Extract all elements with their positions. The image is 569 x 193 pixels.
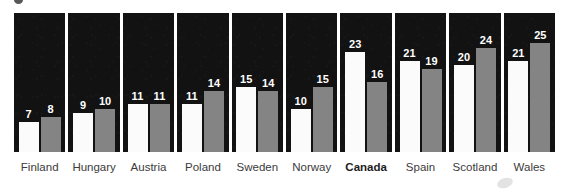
bar-series-b (150, 104, 170, 152)
bar-value-label: 14 (208, 78, 220, 89)
bar-value-label: 10 (99, 96, 111, 107)
bar-column: 8 (41, 13, 61, 152)
chart-panel-spain: 2119 (395, 13, 446, 152)
bar-series-b (41, 117, 61, 152)
bar-column: 11 (128, 13, 148, 152)
bar-group: 78 (14, 13, 65, 152)
bar-series-b (422, 69, 442, 152)
bar-column: 19 (422, 13, 442, 152)
category-label-spain: Spain (395, 160, 446, 180)
category-label-hungary: Hungary (68, 160, 119, 180)
category-label-wales: Wales (504, 160, 555, 180)
bar-value-label: 9 (80, 100, 86, 111)
bar-column: 9 (73, 13, 93, 152)
bar-series-a (236, 87, 256, 152)
bar-column: 20 (454, 13, 474, 152)
chart-panel-canada: 2316 (340, 13, 391, 152)
bar-column: 11 (182, 13, 202, 152)
bar-value-label: 11 (186, 91, 198, 102)
bar-series-b (95, 109, 115, 152)
bar-column: 11 (150, 13, 170, 152)
bar-column: 25 (530, 13, 550, 152)
bar-value-label: 14 (262, 78, 274, 89)
bar-column: 24 (476, 13, 496, 152)
bar-column: 10 (291, 13, 311, 152)
bar-series-a (291, 109, 311, 152)
chart-panel-sweden: 1514 (232, 13, 283, 152)
category-label-canada: Canada (340, 160, 391, 180)
top-edge-artifact (14, 0, 23, 4)
bar-column: 7 (19, 13, 39, 152)
bar-column: 16 (367, 13, 387, 152)
chart-panel-austria: 1111 (123, 13, 174, 152)
bar-series-b (367, 82, 387, 152)
bar-series-b (530, 43, 550, 152)
bar-series-a (19, 122, 39, 152)
bar-value-label: 25 (534, 30, 546, 41)
bar-value-label: 7 (26, 109, 32, 120)
chart-panel-wales: 2125 (504, 13, 555, 152)
bar-column: 10 (95, 13, 115, 152)
bar-value-label: 11 (154, 91, 166, 102)
chart-panel-poland: 1114 (177, 13, 228, 152)
bar-series-b (476, 48, 496, 152)
bar-series-a (73, 113, 93, 152)
category-label-finland: Finland (14, 160, 65, 180)
plot-area: 7891011111114151410152316211920242125 (14, 13, 555, 152)
bar-value-label: 20 (458, 52, 470, 63)
bar-value-label: 21 (403, 48, 415, 59)
category-label-poland: Poland (177, 160, 228, 180)
bar-group: 1114 (177, 13, 228, 152)
category-label-scotland: Scotland (449, 160, 500, 180)
bar-value-label: 23 (349, 39, 361, 50)
bar-series-b (313, 87, 333, 152)
bar-group: 1514 (232, 13, 283, 152)
bar-group: 910 (68, 13, 119, 152)
bar-value-label: 21 (512, 48, 524, 59)
bar-group: 1015 (286, 13, 337, 152)
bar-group: 2316 (340, 13, 391, 152)
bar-group: 2119 (395, 13, 446, 152)
bar-series-a (400, 61, 420, 152)
bar-series-a (345, 52, 365, 152)
chart-panel-finland: 78 (14, 13, 65, 152)
bar-column: 15 (236, 13, 256, 152)
bar-value-label: 15 (317, 74, 329, 85)
bar-series-b (204, 91, 224, 152)
bar-group: 2024 (449, 13, 500, 152)
bar-series-b (258, 91, 278, 152)
bar-series-a (508, 61, 528, 152)
category-label-austria: Austria (123, 160, 174, 180)
bar-chart: 7891011111114151410152316211920242125 Fi… (0, 0, 569, 193)
bar-column: 14 (258, 13, 278, 152)
bar-column: 21 (508, 13, 528, 152)
bar-value-label: 11 (132, 91, 144, 102)
category-label-norway: Norway (286, 160, 337, 180)
bar-column: 21 (400, 13, 420, 152)
bar-group: 1111 (123, 13, 174, 152)
bar-value-label: 8 (48, 104, 54, 115)
bar-group: 2125 (504, 13, 555, 152)
category-label-row: FinlandHungaryAustriaPolandSwedenNorwayC… (14, 160, 555, 180)
bar-series-a (128, 104, 148, 152)
bar-series-a (454, 65, 474, 152)
bar-value-label: 24 (480, 35, 492, 46)
bar-value-label: 19 (425, 56, 437, 67)
chart-panel-norway: 1015 (286, 13, 337, 152)
bar-value-label: 15 (240, 74, 252, 85)
bar-value-label: 16 (371, 69, 383, 80)
category-label-sweden: Sweden (232, 160, 283, 180)
chart-panel-scotland: 2024 (449, 13, 500, 152)
bar-column: 23 (345, 13, 365, 152)
bar-value-label: 10 (295, 96, 307, 107)
chart-panel-hungary: 910 (68, 13, 119, 152)
bar-series-a (182, 104, 202, 152)
bar-column: 14 (204, 13, 224, 152)
bar-column: 15 (313, 13, 333, 152)
